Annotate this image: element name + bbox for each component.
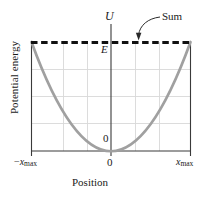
potential-energy-figure: Potential energy U E Sum 0 −xmax 0 xmax …: [0, 0, 213, 198]
sum-leader-line: [139, 17, 161, 35]
x-tick-left-subscript: max: [24, 159, 37, 168]
sum-annotation-label: Sum: [162, 11, 182, 22]
origin-value-label: 0: [103, 133, 109, 144]
plot-canvas: [0, 0, 213, 198]
x-tick-label-xmax: xmax: [176, 157, 193, 168]
vertical-axis-symbol-U: U: [105, 10, 114, 22]
sum-arrowhead-icon: [136, 33, 142, 41]
energy-level-symbol-E: E: [101, 44, 108, 55]
x-tick-label-zero: 0: [107, 157, 113, 168]
x-axis-title: Position: [72, 177, 108, 188]
x-tick-label-negative-xmax: −xmax: [14, 157, 37, 168]
y-axis-title: Potential energy: [9, 30, 20, 126]
x-tick-center-symbol: 0: [107, 156, 113, 168]
x-tick-right-subscript: max: [180, 159, 193, 168]
